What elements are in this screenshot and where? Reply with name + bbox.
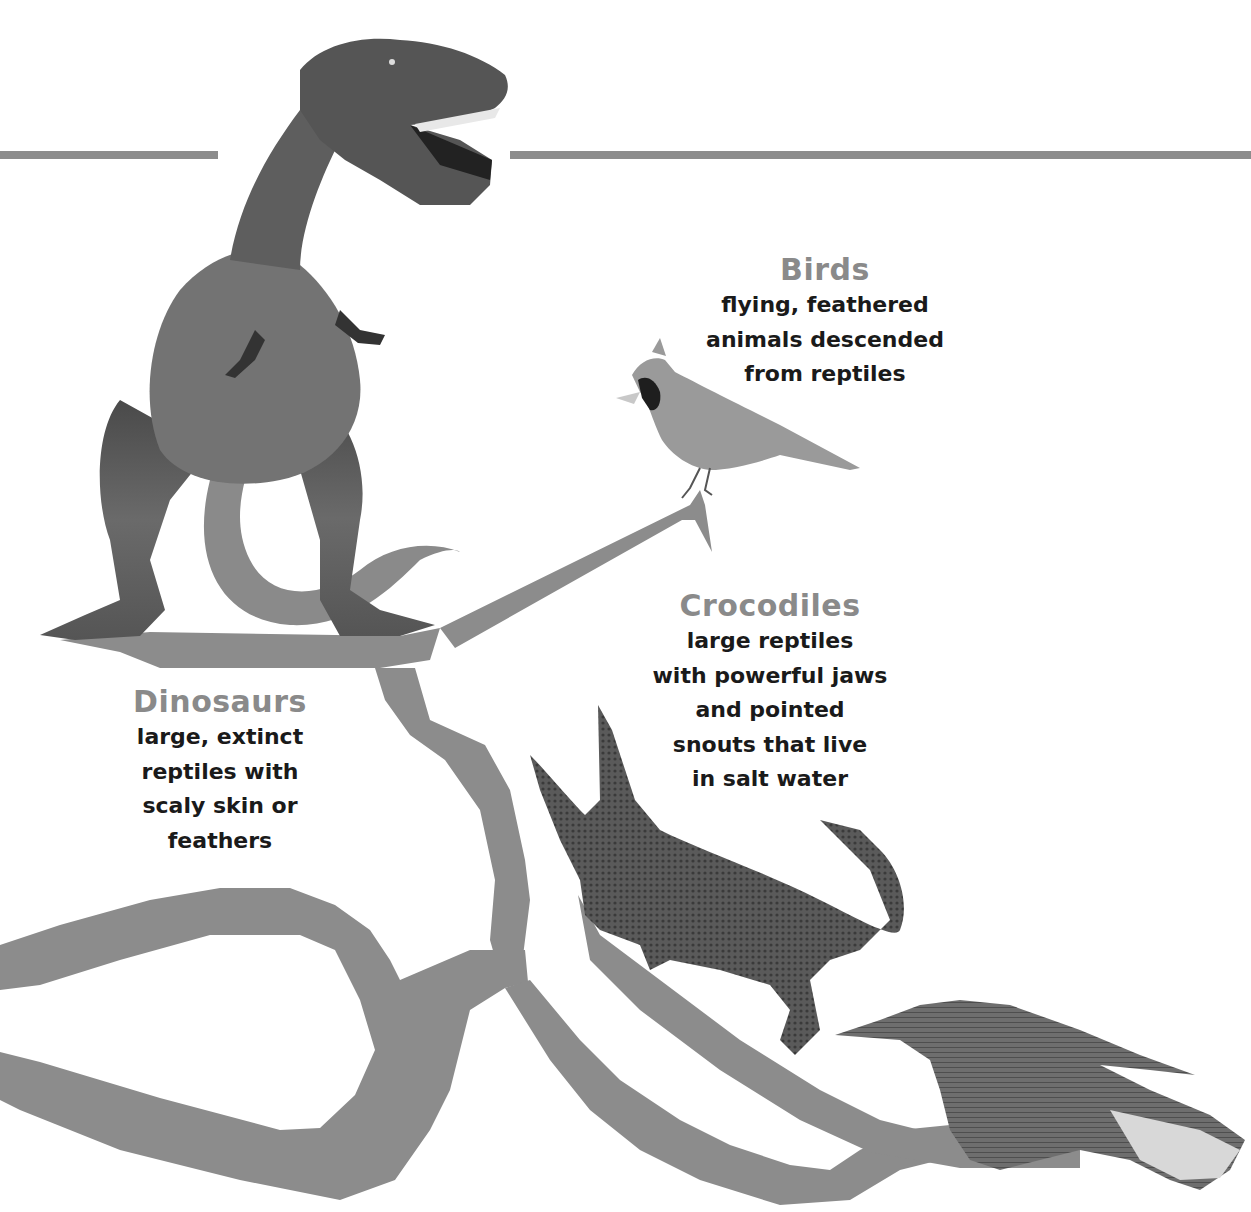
birds-desc-line: animals descended xyxy=(690,323,960,358)
crocodiles-description: large reptiles with powerful jaws and po… xyxy=(640,624,900,797)
crocodiles-title: Crocodiles xyxy=(640,588,900,624)
birds-label: Birds flying, feathered animals descende… xyxy=(690,252,960,392)
diagram-graphics xyxy=(0,0,1251,1212)
dinosaurs-desc-line: large, extinct xyxy=(110,720,330,755)
crocodiles-desc-line: in salt water xyxy=(640,762,900,797)
dinosaurs-description: large, extinct reptiles with scaly skin … xyxy=(110,720,330,858)
dinosaurs-desc-line: feathers xyxy=(110,824,330,859)
evolution-tree-diagram: Birds flying, feathered animals descende… xyxy=(0,0,1251,1212)
dinosaurs-desc-line: reptiles with xyxy=(110,755,330,790)
dinosaurs-title: Dinosaurs xyxy=(110,684,330,720)
birds-title: Birds xyxy=(690,252,960,288)
top-rule xyxy=(0,151,1251,159)
dinosaurs-label: Dinosaurs large, extinct reptiles with s… xyxy=(110,684,330,858)
crocodiles-label: Crocodiles large reptiles with powerful … xyxy=(640,588,900,797)
birds-description: flying, feathered animals descended from… xyxy=(690,288,960,392)
crocodiles-desc-line: large reptiles xyxy=(640,624,900,659)
birds-desc-line: from reptiles xyxy=(690,357,960,392)
trex-image xyxy=(40,39,508,640)
crocodiles-desc-line: snouts that live xyxy=(640,728,900,763)
crocodiles-desc-line: with powerful jaws xyxy=(640,659,900,694)
crocodiles-desc-line: and pointed xyxy=(640,693,900,728)
birds-desc-line: flying, feathered xyxy=(690,288,960,323)
dinosaurs-desc-line: scaly skin or xyxy=(110,789,330,824)
